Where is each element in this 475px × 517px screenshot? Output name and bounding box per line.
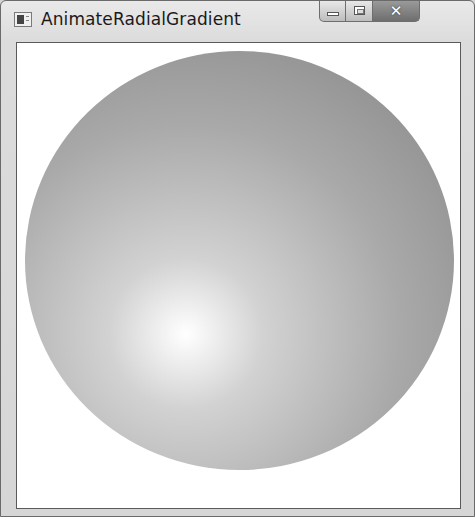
minimize-button[interactable]: [319, 1, 346, 22]
radial-gradient-ellipse: [25, 51, 454, 470]
app-icon-line: [26, 20, 29, 21]
app-window: AnimateRadialGradient ✕: [0, 0, 475, 517]
maximize-icon: [354, 6, 365, 15]
window-title: AnimateRadialGradient: [41, 9, 241, 29]
maximize-button[interactable]: [346, 1, 373, 22]
client-area: [16, 42, 461, 509]
app-icon-block: [17, 15, 24, 24]
title-bar[interactable]: AnimateRadialGradient ✕: [1, 1, 474, 41]
app-icon-line: [26, 16, 29, 17]
close-button[interactable]: ✕: [373, 1, 420, 22]
app-window-icon[interactable]: [14, 12, 32, 27]
window-controls: ✕: [319, 1, 420, 23]
minimize-icon: [327, 12, 339, 16]
close-icon: ✕: [373, 1, 419, 21]
